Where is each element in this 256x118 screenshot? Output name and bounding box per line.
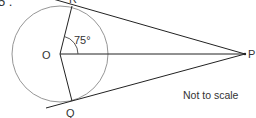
question-number: 5 .: [0, 0, 12, 9]
label-r: R: [69, 0, 77, 5]
radius-or: [60, 6, 72, 54]
geometry-diagram: 5 . R O Q P 75° Not to scale: [0, 0, 256, 118]
label-q: Q: [66, 107, 75, 118]
diagram-canvas: 5 . R O Q P 75° Not to scale: [0, 0, 256, 118]
point-p-marker: [244, 53, 246, 55]
angle-label: 75°: [74, 34, 91, 46]
radius-oq: [60, 54, 72, 101]
label-o: O: [42, 49, 51, 61]
not-to-scale-note: Not to scale: [183, 89, 239, 101]
label-p: P: [248, 48, 255, 60]
